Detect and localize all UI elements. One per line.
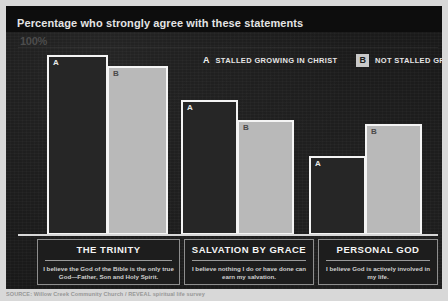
y-axis-top-label: 100% — [20, 35, 47, 47]
category-title: THE TRINITY — [38, 245, 179, 255]
legend-key-a: A — [203, 56, 210, 65]
bar-key-b: B — [113, 70, 119, 78]
category-divider — [326, 260, 430, 261]
category-card-the-trinity: THE TRINITY I believe the God of the Bib… — [37, 239, 180, 285]
bar-key-a: A — [315, 160, 321, 168]
bar-trinity-a[interactable]: A — [47, 55, 108, 235]
category-card-personal-god: PERSONAL GOD I believe God is actively i… — [318, 239, 438, 285]
bar-salvation-b[interactable]: B — [237, 120, 294, 235]
bar-group-salvation-by-grace: A B — [181, 47, 312, 235]
category-card-salvation-by-grace: SALVATION BY GRACE I believe nothing I d… — [184, 239, 314, 285]
legend-key-b: B — [356, 54, 369, 67]
chart-screenshot: Percentage who strongly agree with these… — [0, 0, 448, 301]
category-description: I believe God is actively involved in my… — [324, 265, 432, 283]
chart-baseline — [18, 234, 438, 236]
bar-salvation-a[interactable]: A — [181, 100, 238, 235]
page-title: Percentage who strongly agree with these… — [17, 17, 303, 29]
bar-key-a: A — [187, 104, 193, 112]
source-footnote-text: SOURCE: Willow Creek Community Church / … — [6, 291, 442, 297]
bar-trinity-b[interactable]: B — [107, 66, 168, 235]
chart-legend: A STALLED GROWING IN CHRIST B NOT STALLE… — [203, 54, 442, 67]
bar-personal-god-b[interactable]: B — [365, 124, 422, 235]
bar-personal-god-a[interactable]: A — [309, 156, 366, 235]
bar-key-b: B — [371, 128, 377, 136]
category-divider — [45, 260, 172, 261]
bar-key-b: B — [243, 124, 249, 132]
category-description: I believe nothing I do or have done can … — [190, 265, 308, 283]
category-title: SALVATION BY GRACE — [185, 245, 313, 255]
plot-area: A B A B A B — [18, 47, 438, 235]
category-cards: THE TRINITY I believe the God of the Bib… — [18, 239, 438, 287]
source-footnote: SOURCE: Willow Creek Community Church / … — [6, 291, 442, 301]
legend-label-a: STALLED GROWING IN CHRIST — [216, 57, 338, 65]
bar-key-a: A — [53, 59, 59, 67]
category-title: PERSONAL GOD — [319, 245, 437, 255]
chart-panel: Percentage who strongly agree with these… — [6, 6, 442, 289]
bar-group-personal-god: A B — [309, 47, 440, 235]
legend-label-b: NOT STALLED GROWING IN CHRIST — [375, 57, 442, 65]
category-divider — [192, 260, 306, 261]
category-description: I believe the God of the Bible is the on… — [43, 265, 174, 283]
bar-group-the-trinity: A B — [47, 47, 178, 235]
